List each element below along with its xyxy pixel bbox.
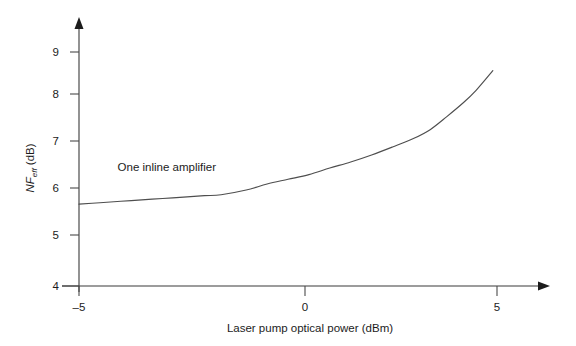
y-tick-label-4: 4 [53, 280, 60, 292]
chart-svg: 9 8 7 6 5 4 –5 0 5 One inline amplifier … [0, 0, 576, 346]
y-axis-title-unit: (dB) [24, 143, 36, 168]
chart-figure: 9 8 7 6 5 4 –5 0 5 One inline amplifier … [0, 0, 576, 346]
x-tick-label-minus5: –5 [73, 301, 86, 313]
y-tick-label-8: 8 [53, 88, 59, 100]
y-tick-label-6: 6 [53, 182, 59, 194]
y-tick-label-9: 9 [53, 46, 59, 58]
y-tick-label-7: 7 [53, 135, 59, 147]
y-axis-title-main: NF [24, 176, 36, 192]
x-axis-title: Laser pump optical power (dBm) [227, 322, 393, 334]
y-tick-label-5: 5 [53, 229, 59, 241]
x-tick-label-5: 5 [494, 301, 500, 313]
x-tick-label-0: 0 [302, 301, 308, 313]
annotation-one-inline-amplifier: One inline amplifier [118, 161, 217, 173]
plot-background [0, 0, 576, 346]
